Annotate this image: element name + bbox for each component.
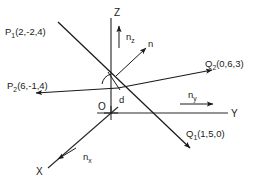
label-axis-z: Z [114,7,120,18]
label-unit-vector-nx: nx [83,151,92,164]
label-point-q1: Q1(1,5,0) [186,128,225,141]
label-unit-vector-ny: ny [188,89,197,103]
line-p1-q1 [58,22,190,148]
label-point-p1: P1(2,-2,4) [5,26,46,39]
label-axis-y: Y [231,108,238,119]
normal-vector-n-arrow [116,48,146,76]
diagram-canvas: P1(2,-2,4) P2(6,-1,4) Q2(0,6,3) Q1(1,5,0… [0,0,259,183]
skew-lines-diagram: P1(2,-2,4) P2(6,-1,4) Q2(0,6,3) Q1(1,5,0… [0,0,259,183]
label-normal-vector-n: n [148,38,153,49]
label-unit-vector-nz: nz [126,31,135,44]
line-to-q2 [118,70,212,88]
unit-vector-nx-arrow [58,148,76,159]
label-origin: O [98,101,106,112]
line-to-p2 [36,88,118,93]
label-axis-x: X [36,166,43,177]
angle-arc [102,74,111,84]
label-distance-d: d [119,94,124,105]
label-point-p2: P2(6,-1,4) [7,80,48,93]
label-point-q2: Q2(0,6,3) [205,58,244,71]
